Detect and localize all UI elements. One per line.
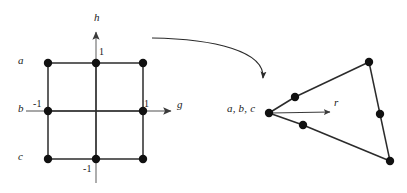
left-grid-group [48,63,143,159]
node-marker [44,59,52,67]
node-marker [299,121,307,129]
r-axis-label: r [334,97,338,108]
triangle-edge [269,97,295,113]
figure-vector-layer [0,0,407,193]
triangle-edge [369,62,380,114]
triangle-edge [295,62,369,97]
figure-canvas: h g 1 -1 1 -1 a b c a, b, c r [0,0,407,193]
node-marker [265,109,273,117]
r-axis-arrow [271,112,330,113]
node-marker [92,155,100,163]
node-marker [44,155,52,163]
triangle-edge [380,114,390,161]
node-marker [139,59,147,67]
row-label-b: b [18,103,24,114]
row-label-a: a [18,55,24,66]
tick-label-h-negative-one: -1 [83,164,92,174]
h-axis-label: h [94,12,100,23]
node-marker [291,93,299,101]
node-marker [365,58,373,66]
transform-arrow [152,38,263,78]
node-marker [44,107,52,115]
node-marker [376,110,384,118]
tick-label-g-negative-one: -1 [33,99,42,109]
g-axis-label: g [177,99,183,110]
node-marker [92,59,100,67]
node-marker [386,157,394,165]
triangle-edge [303,125,390,161]
abc-origin-label: a, b, c [227,103,255,114]
node-marker [139,155,147,163]
tick-label-g-positive-one: 1 [144,99,149,109]
tick-label-h-positive-one: 1 [99,47,104,57]
row-label-c: c [18,151,23,162]
triangle-edge [269,113,303,125]
